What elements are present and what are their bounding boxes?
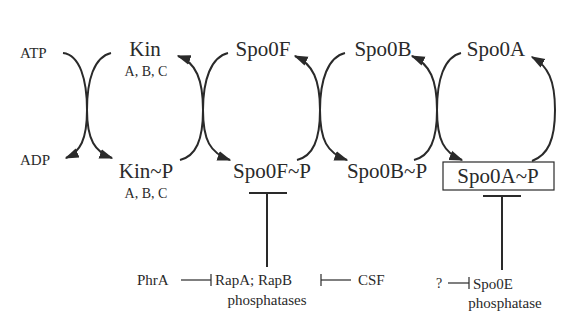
atp-label: ATP bbox=[20, 45, 47, 61]
kin-label: Kin bbox=[129, 37, 161, 61]
atp-adp-crossing bbox=[63, 53, 112, 158]
spo0e-inhibits-spo0ap bbox=[483, 196, 521, 270]
unknown-inhibits-spo0e bbox=[448, 277, 469, 289]
phra-inhibits-rap bbox=[181, 274, 211, 286]
kinp-to-kin-arrow bbox=[178, 56, 203, 160]
spo0f-spo0b-crossing bbox=[295, 53, 347, 160]
spo0bp-to-spo0b-arrow bbox=[412, 56, 437, 160]
atp-to-adp-arrow bbox=[63, 53, 87, 158]
spo0a-to-spo0ap-arrow bbox=[437, 53, 462, 160]
kin-subtypes-label: A, B, C bbox=[125, 64, 168, 79]
spo0b-spo0a-crossing bbox=[412, 53, 462, 160]
phra-label: PhrA bbox=[137, 272, 169, 288]
kin-to-kinp-arrow bbox=[87, 53, 112, 158]
spo0f-label: Spo0F bbox=[236, 37, 291, 61]
kin-spo0f-crossing bbox=[178, 53, 230, 160]
spo0b-to-spo0bp-arrow bbox=[320, 53, 347, 160]
rap-inhibits-spo0fp bbox=[249, 193, 287, 267]
csf-label: CSF bbox=[358, 272, 385, 288]
spo0f-to-spo0fp-arrow bbox=[203, 53, 230, 160]
rap-phosphatases-label: phosphatases bbox=[227, 292, 306, 308]
unknown-regulator-label: ? bbox=[436, 276, 442, 291]
spo0f-p-label: Spo0F~P bbox=[233, 159, 311, 183]
kin-p-subtypes-label: A, B, C bbox=[125, 186, 168, 201]
phosphorelay-diagram: ATP ADP Kin A, B, C Kin~P A, B, C Spo0F … bbox=[0, 0, 583, 330]
spo0a-p-label: Spo0A~P bbox=[457, 164, 538, 188]
kin-p-label: Kin~P bbox=[119, 159, 174, 183]
rap-label: RapA; RapB bbox=[215, 272, 292, 288]
spo0e-label: Spo0E bbox=[473, 276, 513, 292]
spo0ap-to-spo0a-arrow bbox=[532, 57, 555, 161]
spo0b-p-label: Spo0B~P bbox=[347, 159, 427, 183]
adp-label: ADP bbox=[20, 152, 50, 168]
spo0e-phosphatase-label: phosphatase bbox=[468, 295, 542, 311]
csf-inhibits-rap bbox=[321, 274, 351, 286]
spo0a-label: Spo0A bbox=[467, 37, 526, 61]
spo0fp-to-spo0f-arrow bbox=[295, 56, 320, 160]
spo0b-label: Spo0B bbox=[354, 37, 411, 61]
